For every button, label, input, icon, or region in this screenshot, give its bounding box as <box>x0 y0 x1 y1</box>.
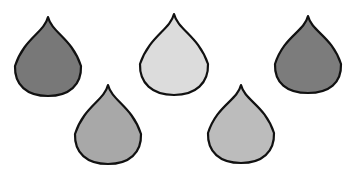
teardrop-shape-group: top-left teardroptop-middle teardroptop-… <box>0 0 352 174</box>
image-canvas: top-left teardroptop-middle teardroptop-… <box>0 0 352 174</box>
